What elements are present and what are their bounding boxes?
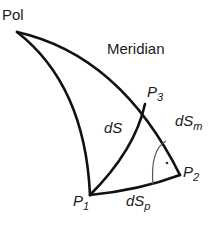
ds-label: dS [104,120,122,135]
dsm-label: dSm [175,113,203,128]
p1-label: P1 [73,193,89,208]
p3-label: P3 [147,84,163,99]
p2-label: P2 [183,164,199,179]
right-angle-dot [166,162,169,165]
dsp-label: dSp [126,193,150,208]
pole-label: Pol [2,7,24,22]
meridian-label: Meridian [107,41,165,56]
ds-curve [90,104,145,195]
